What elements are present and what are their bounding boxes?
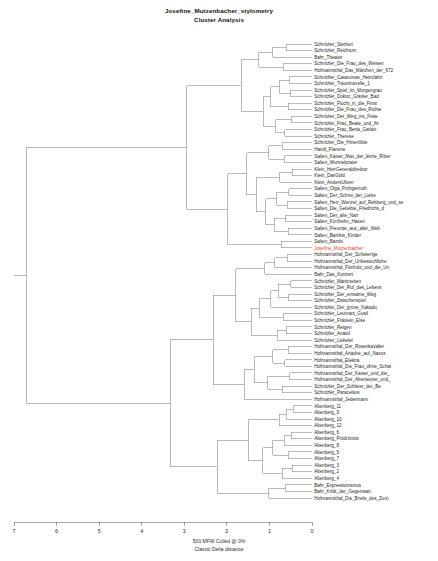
dendrogram-link [275,258,312,268]
dendrogram-link [170,340,217,467]
leaf-label: Altenberg_7 [314,456,339,461]
leaf-label: Altenberg_12 [314,423,342,428]
dendrogram-link [288,103,312,110]
dendrogram-link [236,269,265,322]
leaf-label: Altenberg_5 [314,450,339,455]
axis-tick-label: 3 [183,528,186,534]
dendrogram-link [286,44,312,51]
leaf-label: Hofmannsthal_Der_Abenteurer_und_ [314,377,391,382]
leaf-label: Hofmannsthal_Ariadne_auf_Naxos [314,351,386,356]
dendrogram-link [284,156,312,163]
leaf-label: Schnitzler_Der_einsame_Weg [314,292,376,297]
dendrogram-link [288,347,312,354]
leaf-label: Schnitzler_Traumnovelle_1 [314,81,370,86]
axis-tick-label: 0 [311,528,314,534]
axis-tick-label: 7 [13,528,16,534]
dendrogram-link [279,80,291,93]
dendrogram-link [268,376,290,389]
leaf-label: Bahr_Kritik_der_Gegenwart [314,489,371,494]
dendrogram-link [288,452,312,459]
dendrogram-link [228,174,281,245]
dendrogram-link [263,448,283,474]
dendrogram-link [290,373,312,380]
dendrogram-link [285,360,312,367]
leaf-label: Hofmannsthal_Florindo_und_die_Un [314,265,389,270]
dendrogram-link [289,189,312,196]
dendrogram-link [283,314,312,321]
leaf-label: Schnitzler_Fräulein_Else [314,318,365,323]
dendrogram-link [213,295,244,384]
dendrogram-plot: Schnitzler_SterbenSchnitzler_ReichtumBah… [0,0,438,561]
leaf-label: Hofmannsthal_Jedermann [314,397,368,402]
leaf-label: Hofmannsthal_Der_Kaiser_und_die_ [314,371,390,376]
dendrogram-link [283,64,312,71]
dendrogram-link [276,120,292,133]
dendrogram-link [282,143,312,150]
leaf-label: Schnitzler_Die_Hirtenflöte [314,140,368,145]
leaf-label: Schnitzler_Paracelsus [314,390,360,395]
leaf-label: Hofmannsthal_Der_Schwierige [314,252,378,257]
leaf-label: Schnitzler_Die_Frau_des_Weisen [314,61,384,66]
leaf-label: Klein_AndersUltem [314,180,353,185]
dendrogram-link [277,330,312,340]
dendrogram-link [271,87,288,107]
leaf-label: Schnitzler_Sterben [314,42,353,47]
dendrogram-link [273,47,312,57]
leaf-label: Altenberg_8 [314,443,339,448]
caption-line-1: 500 MFW Culled @ 0% [0,538,438,546]
dendrogram-link [259,299,283,317]
leaf-label: Altenberg_10 [314,417,342,422]
axis-tick-label: 2 [225,528,228,534]
dendrogram-link [293,406,312,413]
leaf-label: Schnitzler_Reichtum [314,48,356,53]
leaf-label: Salten_Olga_Frohgemuth [314,186,367,191]
leaf-label: Klein_HerrGeneraldirektor [314,167,368,172]
leaf-label: Schnitzler_Frau_Beate_und_ihr [314,121,379,126]
dendrogram-link [269,488,312,498]
dendrogram-link [287,202,312,209]
dendrogram-leaf-labels: Schnitzler_SterbenSchnitzler_ReichtumBah… [314,42,403,501]
leaf-label: Schnitzler_Doktor_Gräsler_Bad [314,94,379,99]
leaf-label: Schnitzler_Der_grüne_Kakadu [314,305,377,310]
axis-tick-label: 6 [55,528,58,534]
dendrogram-link [280,172,312,182]
dendrogram-link [291,281,312,288]
distance-axis: 76543210 [13,522,314,534]
dendrogram-link [247,153,269,195]
leaf-label: Altenberg_Pródrömös [314,436,359,441]
dendrogram-branches [14,44,312,498]
leaf-label: Salten_Freunde_aus_aller_Welt [314,226,380,231]
dendrogram-link [284,435,312,445]
axis-tick-label: 5 [98,528,101,534]
dendrogram-link [241,60,263,112]
dendrogram-link [282,468,312,478]
leaf-label: Handl_Flamme [314,147,346,152]
leaf-label: Schnitzler_Liebelei [314,338,353,343]
leaf-label: Schnitzler_Frau_Berta_Garlan [314,127,376,132]
dendrogram-link [292,465,312,472]
dendrogram-link [273,440,288,455]
dendrogram-link [282,386,312,393]
leaf-label: Schnitzler_Flucht_in_die_Finst [314,101,377,106]
dendrogram-link [288,228,312,235]
leaf-label: Schnitzler_Leutnant_Gustl [314,311,368,316]
dendrogram-link [289,77,312,84]
leaf-label: Salten_Die_Geliebte_Friedrichs_d [314,206,384,211]
dendrogram-link [254,357,273,383]
leaf-label: Schnitzler_Therese [314,134,354,139]
dendrogram-link [286,409,312,419]
leaf-label: Schnitzler_Casanovas_Heimfahrt [314,75,383,80]
axis-tick-label: 1 [268,528,271,534]
leaf-label: Altenberg_11 [314,404,341,409]
leaf-label: Schnitzler_Der_Schleier_der_Be [314,384,381,389]
axis-tick-label: 4 [140,528,143,534]
leaf-label: Salten_Der_alte_Narr [314,213,359,218]
dendrogram-link [26,147,186,403]
leaf-label: Hofmannsthal_Der_Rosenkavalier [314,344,384,349]
leaf-label: Altenberg_2 [314,469,339,474]
dendrogram-link [265,263,312,275]
leaf-label: Schnitzler_Der_Ruf_des_Lebens [314,285,382,290]
dendrogram-link [285,130,312,137]
dendrogram-link [291,432,312,439]
leaf-label: Salten_Der_Schrei_der_Liebe [314,193,376,198]
